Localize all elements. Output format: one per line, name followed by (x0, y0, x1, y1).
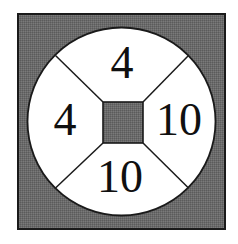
sector-top-label: 4 (111, 37, 134, 88)
center-gray-square (103, 102, 143, 143)
sector-left-label: 4 (54, 94, 77, 145)
sector-right-label: 10 (156, 94, 202, 145)
figure-container: 4 4 10 10 (0, 0, 238, 244)
sector-bottom-label: 10 (97, 151, 143, 202)
sectioned-circle-diagram: 4 4 10 10 (0, 0, 238, 244)
